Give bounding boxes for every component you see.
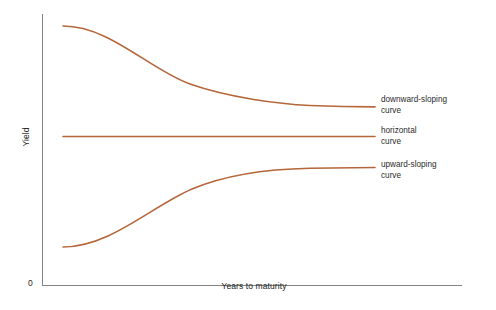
curve-label-horizontal: horizontal curve <box>381 126 493 147</box>
x-axis-label: Years to maturity <box>181 281 327 291</box>
curve-downward-sloping <box>63 26 375 107</box>
y-axis-label: Yield <box>21 117 31 157</box>
curve-label-upward-sloping: upward-sloping curve <box>381 160 493 181</box>
yield-curve-chart: Yield Years to maturity 0 downward-slopi… <box>0 0 496 310</box>
chart-plot-area <box>0 0 496 310</box>
curve-label-downward-sloping: downward-sloping curve <box>381 95 493 116</box>
curve-upward-sloping <box>63 168 375 248</box>
origin-label: 0 <box>28 278 33 288</box>
